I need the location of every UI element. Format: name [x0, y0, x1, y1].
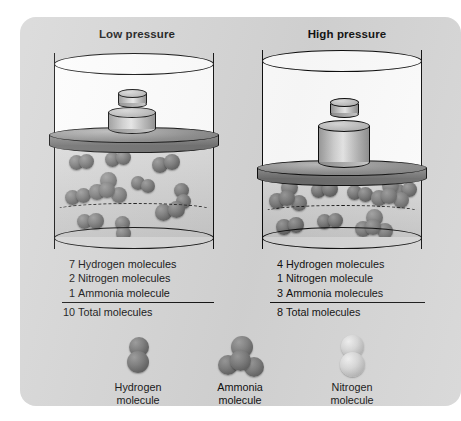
count-label: Nitrogen molecule: [286, 272, 373, 284]
total-label: Total molecules: [78, 306, 152, 318]
count-row: 4Hydrogen molecules: [270, 257, 425, 271]
legend-line1: Nitrogen: [332, 381, 373, 393]
count-number: 3: [270, 286, 283, 300]
count-row: 3Ammonia molecules: [270, 286, 425, 300]
count-row: 7Hydrogen molecules: [62, 257, 214, 271]
ammonia-molecule: [89, 171, 127, 204]
count-number: 4: [270, 257, 283, 271]
panel-title-low: Low pressure: [32, 28, 242, 40]
cylinder-low: [54, 53, 214, 249]
cylinder-top-rim-low: [54, 53, 214, 75]
legend-line2: molecule: [330, 394, 373, 406]
legend-item-nitrogen: Nitrogen molecule: [292, 335, 412, 406]
legend-line1: Hydrogen: [115, 381, 162, 393]
count-label: Nitrogen molecules: [78, 272, 170, 284]
total-row: 10Total molecules: [62, 305, 214, 319]
hydrogen-molecule: [69, 154, 95, 172]
figure-card: Low pressure: [20, 17, 461, 406]
count-number: 2: [62, 271, 75, 285]
hydrogen-molecule: [152, 154, 180, 173]
count-number: 7: [62, 257, 75, 271]
count-label: Hydrogen molecules: [78, 258, 176, 270]
legend: Hydrogen molecule Ammonia molecule: [20, 335, 461, 405]
count-label: Ammonia molecule: [78, 287, 170, 299]
weight-knob-high: [330, 98, 359, 121]
counts-high: 4Hydrogen molecules 1Nitrogen molecule 3…: [270, 257, 425, 320]
count-number: 1: [62, 286, 75, 300]
cylinder-bottom-rim-low: [54, 227, 214, 249]
count-row: 1Nitrogen molecule: [270, 271, 425, 285]
legend-label-nitrogen: Nitrogen molecule: [292, 381, 412, 406]
hydrogen-molecule: [131, 176, 156, 193]
ammonia-molecule-icon: [180, 335, 300, 379]
counts-low: 7Hydrogen molecules 2Nitrogen molecules …: [62, 257, 214, 320]
hydrogen-molecule: [65, 188, 91, 206]
cylinder-bottom-rim-high: [262, 227, 422, 249]
hydrogen-molecule: [347, 185, 374, 203]
nitrogen-molecule-icon: [292, 335, 412, 379]
legend-line1: Ammonia: [217, 381, 263, 393]
cylinder-top-rim-high: [262, 50, 422, 72]
weight-knob-low: [118, 89, 147, 111]
figure-root: Low pressure: [0, 0, 461, 421]
legend-line2: molecule: [116, 394, 159, 406]
legend-label-ammonia: Ammonia molecule: [180, 381, 300, 406]
count-row: 2Nitrogen molecules: [62, 271, 214, 285]
count-number: 1: [270, 271, 283, 285]
count-row: 1Ammonia molecule: [62, 286, 214, 300]
panel-title-high: High pressure: [242, 28, 452, 40]
total-number: 8: [270, 305, 283, 319]
count-label: Ammonia molecules: [286, 287, 383, 299]
counts-divider: [270, 302, 425, 303]
weight-high: [318, 112, 370, 172]
legend-line2: molecule: [218, 394, 261, 406]
total-number: 10: [62, 305, 75, 319]
gas-region-low: [55, 141, 213, 237]
legend-item-ammonia: Ammonia molecule: [180, 335, 300, 406]
total-row: 8Total molecules: [270, 305, 425, 319]
cylinder-high: [262, 50, 422, 249]
total-label: Total molecules: [286, 306, 360, 318]
count-label: Hydrogen molecules: [286, 258, 384, 270]
counts-divider: [62, 302, 214, 303]
